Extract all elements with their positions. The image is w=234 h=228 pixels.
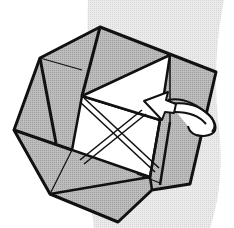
origami-diagram bbox=[0, 0, 234, 228]
